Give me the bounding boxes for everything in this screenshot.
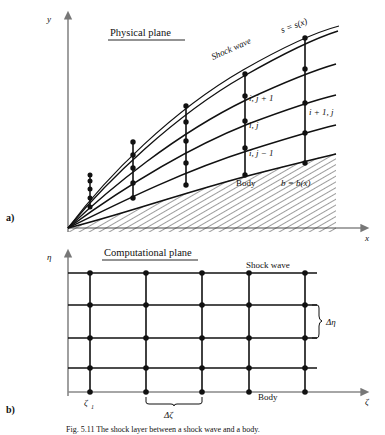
- body-label-physical: Body: [236, 178, 256, 188]
- panel-b-letter: b): [6, 404, 15, 416]
- shock-wave-label-computational: Shock wave: [246, 260, 290, 270]
- grid-columns-computational: [90, 273, 305, 392]
- zeta-axis-label: ζ: [365, 397, 370, 407]
- figure-caption: Fig. 5.11 The shock layer between a shoc…: [66, 425, 260, 434]
- figure-container: y x a) Physical plane: [0, 0, 385, 435]
- y-axis-label: y: [46, 14, 51, 24]
- eta-axis-label: η: [47, 252, 52, 262]
- grid-rows-computational: [68, 273, 317, 368]
- body-label-computational: Body: [258, 392, 278, 402]
- body-equation-label: b = b(x): [281, 178, 311, 188]
- delta-eta-brace: [312, 305, 322, 338]
- panel-physical-plane: y x a) Physical plane: [6, 14, 369, 243]
- body-hatching: [60, 145, 350, 240]
- shock-wave-label-physical: Shock wave: [210, 36, 253, 62]
- delta-xi-brace: [146, 397, 202, 406]
- delta-eta-label: Δη: [325, 317, 336, 327]
- figure-svg: y x a) Physical plane: [0, 0, 385, 435]
- node-label-i-j-plus-1: i, j + 1: [249, 93, 274, 103]
- panel-a-letter: a): [6, 212, 14, 224]
- grid-nodes-computational: [87, 270, 308, 395]
- node-label-i-j-minus-1: i, j − 1: [249, 148, 274, 158]
- xi-first-label: ζ: [84, 398, 89, 408]
- computational-plane-title: Computational plane: [104, 247, 192, 258]
- shock-equation-label: s = s(x): [279, 16, 308, 35]
- node-label-i-plus-1-j: i + 1, j: [309, 107, 334, 117]
- panel-computational-plane: η ζ b) Computational plane: [6, 247, 370, 420]
- xi-first-subscript: 1: [91, 404, 94, 410]
- x-axis-label: x: [364, 233, 369, 243]
- physical-plane-title: Physical plane: [110, 27, 171, 38]
- delta-xi-label: Δζ: [163, 410, 174, 420]
- node-label-i-j: i, j: [249, 120, 259, 130]
